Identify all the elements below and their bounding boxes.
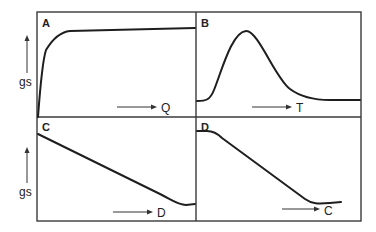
x-axis-label-b: T — [296, 101, 304, 115]
panel-label-b: B — [201, 17, 209, 29]
gs-response-diagram: gs gs A Q B T C D D C — [0, 0, 376, 232]
y-axis-indicator-bottom: gs — [19, 147, 32, 199]
panel-label-a: A — [42, 17, 50, 29]
panel-b: B T — [197, 17, 360, 115]
panel-d: D C — [197, 121, 341, 218]
curve-c — [38, 134, 195, 205]
right-arrow-icon — [286, 105, 292, 110]
curve-b — [197, 31, 360, 101]
y-axis-label-top: gs — [19, 75, 32, 89]
right-arrow-icon — [151, 105, 157, 110]
right-arrow-icon — [314, 207, 320, 212]
x-axis-label-d: C — [324, 204, 333, 218]
up-arrow-icon — [25, 147, 30, 153]
up-arrow-icon — [25, 35, 30, 41]
y-axis-label-bottom: gs — [19, 185, 32, 199]
x-axis-label-c: D — [157, 206, 166, 220]
panel-c: C D — [38, 121, 195, 220]
y-axis-indicator-top: gs — [19, 35, 32, 89]
curve-a — [38, 28, 195, 117]
x-axis-label-a: Q — [161, 101, 170, 115]
right-arrow-icon — [147, 210, 153, 215]
curve-d — [197, 131, 341, 204]
panel-a: A Q — [38, 17, 195, 117]
panel-label-c: C — [42, 121, 50, 133]
